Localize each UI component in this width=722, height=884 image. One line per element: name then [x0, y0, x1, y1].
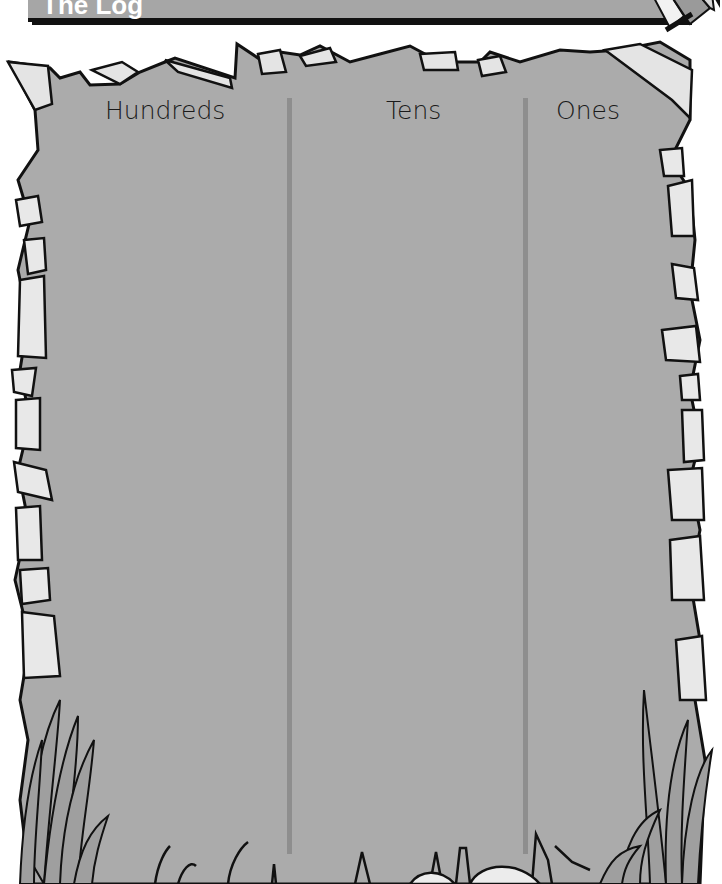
column-header-hundreds: Hundreds	[105, 96, 225, 125]
page-title: The Log	[42, 0, 143, 18]
column-header-tens: Tens	[386, 96, 441, 125]
title-banner: The Log	[28, 0, 688, 22]
column-header-ones: Ones	[556, 96, 620, 125]
log-frame	[0, 38, 722, 884]
divider-hundreds-tens	[287, 98, 292, 854]
place-value-panel	[10, 42, 705, 884]
pencil-icon	[640, 0, 720, 38]
divider-tens-ones	[523, 98, 528, 854]
